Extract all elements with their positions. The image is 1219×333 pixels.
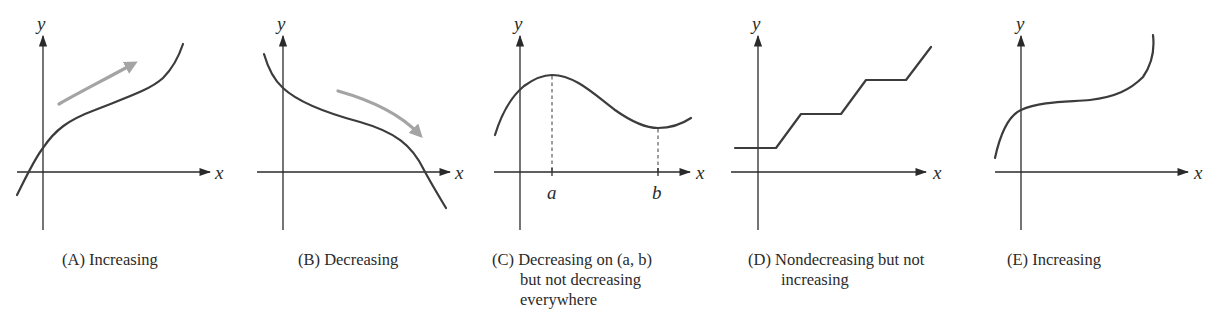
panel-a: y x	[17, 13, 224, 230]
local-max-min-curve	[495, 75, 691, 135]
panel-c: y x a b	[494, 13, 705, 230]
x-axis-label: x	[695, 162, 705, 183]
caption-d: (D) Nondecreasing but not increasing	[748, 250, 924, 290]
caption-b: (B) Decreasing	[298, 250, 398, 270]
caption-e: (E) Increasing	[1007, 250, 1101, 270]
panel-b: y x	[257, 13, 464, 230]
caption-c: (C) Decreasing on (a, b) but not decreas…	[492, 250, 652, 310]
step-function	[735, 47, 931, 148]
decreasing-curve	[264, 54, 446, 208]
tick-label-a: a	[547, 182, 557, 203]
y-axis-label: y	[750, 13, 761, 34]
x-axis-label: x	[454, 162, 464, 183]
x-axis-label: x	[214, 162, 224, 183]
panel-e: y x	[995, 13, 1203, 230]
y-axis-label: y	[1014, 13, 1025, 34]
panel-d: y x	[731, 13, 942, 230]
cubic-increasing-curve	[995, 35, 1153, 158]
y-axis-label: y	[35, 13, 46, 34]
tick-label-b: b	[652, 182, 662, 203]
direction-arrow-icon	[59, 64, 133, 104]
caption-a: (A) Increasing	[62, 250, 158, 270]
y-axis-label: y	[275, 13, 286, 34]
x-axis-label: x	[1193, 162, 1203, 183]
x-axis-label: x	[932, 162, 942, 183]
y-axis-label: y	[512, 13, 523, 34]
